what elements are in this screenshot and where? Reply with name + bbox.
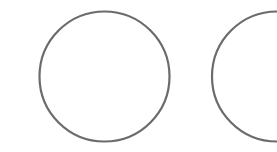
diagram-canvas xyxy=(0,0,277,152)
shapes-drawing xyxy=(0,0,277,152)
circle-right-shape xyxy=(212,12,277,142)
circle-left-shape xyxy=(40,12,170,142)
